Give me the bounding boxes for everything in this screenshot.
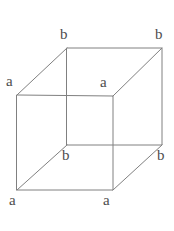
vertex-label-front-top-left: a	[6, 74, 13, 89]
front-face-square	[17, 95, 113, 190]
vertex-label-back-bottom-right: b	[157, 148, 165, 163]
vertex-label-back-top-right: b	[155, 27, 163, 42]
cube-edges	[17, 48, 162, 190]
vertex-label-back-top-left: b	[60, 27, 68, 42]
connector-top-left-edge	[17, 48, 67, 95]
vertex-label-front-bottom-left: a	[9, 193, 16, 208]
connector-bottom-right-edge	[113, 145, 162, 190]
vertex-label-back-bottom-left: b	[62, 148, 70, 163]
connector-bottom-left-edge	[17, 145, 67, 190]
connector-top-right-edge	[113, 48, 162, 96]
vertex-label-front-bottom-mid: a	[103, 193, 110, 208]
vertex-label-front-top-right: a	[100, 75, 107, 90]
cube-wireframe-svg	[0, 0, 174, 231]
cube-diagram: b b a a b b a a	[0, 0, 174, 231]
